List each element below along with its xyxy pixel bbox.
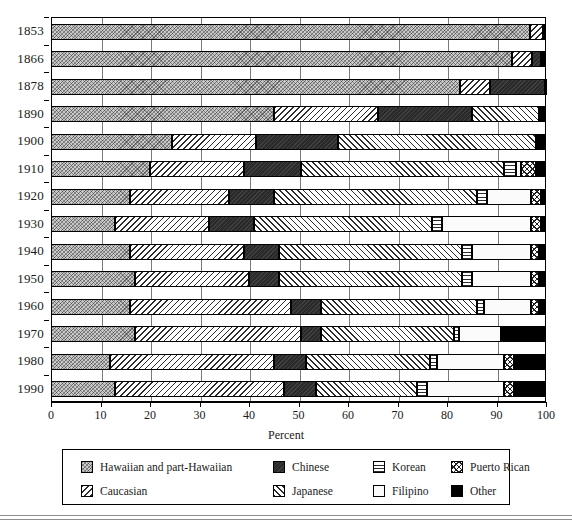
y-axis-tick-mark bbox=[44, 127, 49, 128]
gridline bbox=[448, 18, 449, 401]
y-axis-tick-mark bbox=[44, 320, 49, 321]
y-axis-tick-label: 1920 bbox=[0, 189, 44, 202]
y-axis-tick-label: 1910 bbox=[0, 162, 44, 175]
bar-segment bbox=[321, 299, 477, 315]
bar-row bbox=[52, 24, 547, 40]
bar-segment bbox=[51, 381, 115, 397]
x-axis-tick-mark bbox=[546, 402, 547, 407]
gridline bbox=[102, 18, 103, 401]
x-axis-tick-mark bbox=[299, 402, 300, 407]
legend-label: Hawaiian and part-Hawaiian bbox=[100, 461, 232, 473]
bar-segment bbox=[51, 271, 135, 287]
y-axis-tick-mark bbox=[44, 45, 49, 46]
gridline bbox=[399, 18, 400, 401]
x-axis-title: Percent bbox=[0, 428, 572, 443]
legend-swatch-icon bbox=[373, 485, 385, 497]
legend-item: Korean bbox=[373, 461, 426, 473]
bar-segment bbox=[477, 299, 484, 315]
bar-segment bbox=[462, 244, 472, 260]
x-axis-tick-mark bbox=[249, 402, 250, 407]
bar-segment bbox=[472, 106, 539, 122]
bar-segment bbox=[531, 271, 538, 287]
legend-swatch-icon bbox=[373, 461, 385, 473]
x-axis-tick-mark bbox=[101, 402, 102, 407]
bar-segment bbox=[115, 381, 283, 397]
y-axis-tick-mark bbox=[44, 17, 49, 18]
legend-swatch-icon bbox=[81, 461, 93, 473]
y-axis-tick-label: 1970 bbox=[0, 327, 44, 340]
bar-segment bbox=[274, 189, 477, 205]
y-axis-tick-mark bbox=[44, 292, 49, 293]
bar-segment bbox=[51, 79, 460, 95]
bar-segment bbox=[150, 161, 244, 177]
legend-item: Japanese bbox=[273, 485, 333, 497]
bar-segment bbox=[530, 24, 543, 40]
bar-segment bbox=[459, 326, 501, 342]
y-axis-tick-label: 1878 bbox=[0, 79, 44, 92]
y-axis-tick-mark bbox=[44, 182, 49, 183]
bar-segment bbox=[543, 24, 546, 40]
y-axis-tick-mark bbox=[44, 237, 49, 238]
gridline bbox=[151, 18, 152, 401]
x-axis-tick-mark bbox=[150, 402, 151, 407]
y-axis-tick-mark bbox=[44, 100, 49, 101]
legend-item: Hawaiian and part-Hawaiian bbox=[81, 461, 232, 473]
x-axis-tick-label: 10 bbox=[81, 409, 121, 421]
x-axis-tick-label: 50 bbox=[279, 409, 319, 421]
y-axis-tick-label: 1866 bbox=[0, 52, 44, 65]
x-axis-tick-label: 80 bbox=[427, 409, 467, 421]
bar-segment bbox=[460, 79, 490, 95]
bar-segment bbox=[378, 106, 472, 122]
bar-segment bbox=[539, 299, 546, 315]
legend-label: Filipino bbox=[392, 485, 428, 497]
bar-segment bbox=[51, 161, 150, 177]
bar-segment bbox=[514, 381, 546, 397]
gridline bbox=[250, 18, 251, 401]
bar-segment bbox=[244, 244, 279, 260]
x-axis-tick-mark bbox=[348, 402, 349, 407]
bar-segment bbox=[115, 216, 209, 232]
x-axis-tick-label: 100 bbox=[526, 409, 566, 421]
bar-segment bbox=[462, 271, 472, 287]
footer-rule-top bbox=[0, 515, 572, 516]
bar-row bbox=[52, 381, 547, 397]
legend-swatch-icon bbox=[451, 485, 463, 497]
x-axis-tick-label: 0 bbox=[31, 409, 71, 421]
x-axis-tick-mark bbox=[200, 402, 201, 407]
bar-segment bbox=[301, 326, 321, 342]
bar-segment bbox=[490, 79, 544, 95]
bar-segment bbox=[209, 216, 254, 232]
legend-label: Puerto Rican bbox=[470, 461, 530, 473]
plot-area bbox=[51, 17, 546, 402]
x-axis-tick-label: 60 bbox=[328, 409, 368, 421]
bar-segment bbox=[504, 161, 516, 177]
y-axis-tick-mark bbox=[44, 210, 49, 211]
legend-swatch-icon bbox=[273, 461, 285, 473]
bar-segment bbox=[504, 354, 514, 370]
bar-segment bbox=[487, 189, 532, 205]
bar-segment bbox=[541, 189, 546, 205]
bar-segment bbox=[279, 244, 462, 260]
bar-segment bbox=[51, 326, 135, 342]
bar-segment bbox=[531, 299, 538, 315]
bar-segment bbox=[504, 381, 514, 397]
bar-segment bbox=[484, 299, 531, 315]
bar-segment bbox=[135, 326, 301, 342]
y-axis-tick-label: 1930 bbox=[0, 217, 44, 230]
y-axis-tick-mark bbox=[44, 347, 49, 348]
legend-item: Chinese bbox=[273, 461, 329, 473]
bar-segment bbox=[51, 24, 530, 40]
x-axis-tick-mark bbox=[51, 402, 52, 407]
y-axis-tick-label: 1960 bbox=[0, 299, 44, 312]
legend-label: Chinese bbox=[292, 461, 329, 473]
bar-row bbox=[52, 216, 547, 232]
legend-swatch-icon bbox=[451, 461, 463, 473]
bar-segment bbox=[135, 271, 249, 287]
bar-segment bbox=[51, 244, 130, 260]
bar-segment bbox=[110, 354, 273, 370]
bar-segment bbox=[531, 189, 541, 205]
x-axis-tick-label: 90 bbox=[477, 409, 517, 421]
bar-segment bbox=[51, 189, 130, 205]
bar-segment bbox=[316, 381, 417, 397]
bar-segment bbox=[417, 381, 427, 397]
